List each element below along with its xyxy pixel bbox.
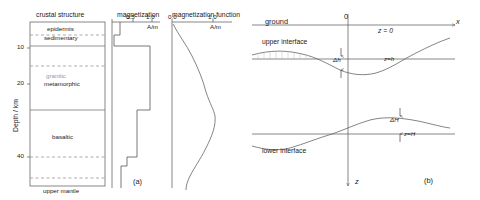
lower-depth-label: z=H (404, 131, 415, 137)
panel-a-graphic (0, 0, 240, 200)
lower-interface-label: lower interface (262, 148, 306, 155)
magnetization-step-curve (114, 22, 150, 188)
mag-tick-0-5: 0.5 (126, 14, 135, 20)
panel-b-tag: (b) (424, 177, 433, 184)
magnetization-function-curve (173, 24, 215, 190)
layer-basaltic: basaltic (52, 134, 73, 140)
upper-depth-label: z=h (384, 56, 394, 62)
layer-metamorphic: metamorphic (44, 81, 80, 87)
magnetization-function-title: magnetization function (172, 12, 240, 19)
panel-b-graphic (240, 0, 480, 200)
origin-label: 0 (344, 13, 348, 20)
depth-tick-20: 20 (17, 80, 24, 86)
depth-tick-40: 40 (17, 153, 24, 159)
ground-label: ground (265, 18, 288, 25)
crustal-structure-title: crustal structure (36, 12, 84, 19)
layer-upper-mantle: upper mantle (43, 188, 79, 194)
magfun-tick-1-0: 1.0 (208, 14, 217, 20)
delta-h-label: Δh (333, 57, 341, 63)
depth-tick-10: 10 (17, 44, 24, 50)
z-zero-label: z = 0 (378, 28, 393, 35)
panel-a-tag: (a) (133, 178, 142, 185)
figure-root: crustal structure magnetization magnetiz… (0, 0, 480, 200)
magfun-unit: A/m (210, 24, 221, 30)
upper-interface-label: upper interface (262, 39, 307, 46)
mag-tick-1-0: 1.0 (146, 14, 155, 20)
depth-axis-label: Depth / km (13, 99, 20, 132)
x-axis-label: x (456, 18, 460, 25)
mag-unit: A/m (147, 24, 158, 30)
layer-granitic: granitic (46, 73, 66, 79)
delta-H-label: ΔH (390, 117, 399, 123)
z-axis-label: z (355, 178, 359, 185)
layer-epidermis: epidermis (47, 26, 74, 32)
magfun-tick-0-0: 0.0 (168, 14, 177, 20)
layer-sedimentary: sedimentary (44, 35, 78, 41)
